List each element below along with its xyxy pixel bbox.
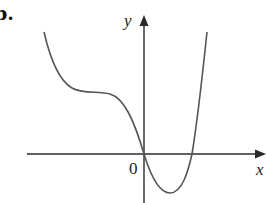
function-curve	[44, 32, 207, 193]
x-axis-arrow-icon	[255, 150, 266, 159]
origin-label: 0	[129, 159, 138, 179]
y-axis-label: y	[124, 11, 132, 31]
y-axis-arrow-icon	[140, 15, 149, 26]
x-axis-label: x	[256, 160, 264, 180]
function-graph-figure: b. y x 0	[0, 0, 266, 203]
